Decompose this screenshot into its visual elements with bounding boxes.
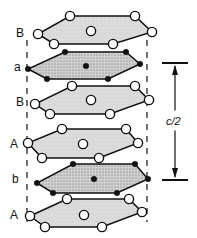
layers: [23, 11, 156, 231]
filled-atom-icon: [145, 176, 151, 182]
layer-label: B: [16, 95, 24, 109]
open-atom-icon: [130, 11, 139, 20]
filled-atom-icon: [132, 161, 138, 167]
filled-atom-icon: [25, 66, 31, 72]
open-atom-icon: [133, 138, 142, 147]
open-atom-icon: [23, 138, 32, 147]
filled-atom-icon: [123, 49, 129, 55]
layer-label: a: [14, 60, 21, 74]
open-atom-icon: [49, 39, 58, 48]
layer-b-4: [34, 161, 151, 196]
layer-a-1: [25, 49, 143, 82]
arrow-down-icon: [172, 168, 178, 178]
open-atom-icon: [105, 109, 114, 118]
filled-atom-icon: [137, 61, 143, 67]
c-half-label: c/2: [166, 115, 181, 127]
open-atom-icon: [124, 194, 133, 203]
filled-atom-icon: [70, 161, 76, 167]
filled-atom-icon: [83, 63, 89, 69]
layer-A-5: [25, 194, 146, 231]
filled-atom-icon: [34, 180, 40, 186]
open-atom-icon: [144, 95, 153, 104]
layer-B-2: [30, 81, 153, 118]
open-atom-icon: [86, 95, 95, 104]
filled-atom-icon: [50, 190, 56, 196]
open-atom-icon: [147, 27, 156, 36]
layer-A-3: [23, 124, 142, 162]
layer-stacking-diagram: BaBAbA c/2: [0, 0, 197, 238]
open-atom-icon: [121, 124, 130, 133]
open-atom-icon: [67, 81, 76, 90]
layer-label: b: [12, 172, 19, 186]
open-atom-icon: [137, 207, 146, 216]
open-atom-icon: [94, 153, 103, 162]
filled-atom-icon: [114, 190, 120, 196]
layer-labels: BaBAbA: [10, 26, 24, 222]
open-atom-icon: [97, 222, 106, 231]
layer-label: B: [16, 26, 24, 40]
layer-label: A: [10, 137, 18, 151]
open-atom-icon: [37, 153, 46, 162]
open-atom-icon: [130, 81, 139, 90]
filled-atom-icon: [62, 49, 68, 55]
filled-atom-icon: [105, 76, 111, 82]
filled-atom-icon: [91, 176, 97, 182]
open-atom-icon: [57, 124, 66, 133]
layer-label: A: [10, 208, 18, 222]
open-atom-icon: [108, 39, 117, 48]
layer-B-0: [33, 11, 156, 48]
open-atom-icon: [25, 211, 34, 220]
open-atom-icon: [62, 194, 71, 203]
open-atom-icon: [86, 26, 95, 35]
c-half-dimension-marker: c/2: [162, 63, 188, 180]
arrow-up-icon: [172, 65, 178, 75]
filled-atom-icon: [44, 76, 50, 82]
open-atom-icon: [40, 222, 49, 231]
open-atom-icon: [78, 139, 87, 148]
open-atom-icon: [79, 210, 88, 219]
open-atom-icon: [30, 99, 39, 108]
open-atom-icon: [33, 29, 42, 38]
open-atom-icon: [65, 11, 74, 20]
open-atom-icon: [45, 109, 54, 118]
